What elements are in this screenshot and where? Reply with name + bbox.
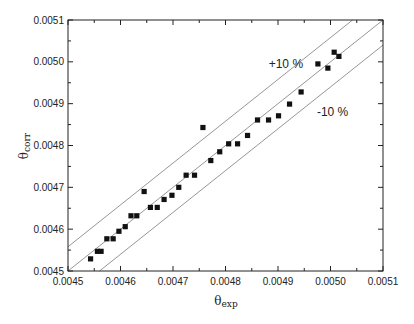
reference-line [100, 45, 384, 271]
data-point [88, 256, 93, 261]
y-tick-label: 0.0051 [33, 15, 64, 26]
x-tick-label: 0.0047 [158, 276, 189, 287]
y-tick-label: 0.0047 [33, 182, 64, 193]
reference-line [68, 20, 353, 247]
data-point [200, 125, 205, 130]
scatter-chart: 0.00450.00460.00470.00480.00490.00500.00… [0, 0, 414, 324]
data-point [142, 189, 147, 194]
data-point [184, 173, 189, 178]
x-tick-label: 0.0049 [263, 276, 294, 287]
y-axis-title: θcorr [17, 132, 32, 159]
y-tick-label: 0.0049 [33, 98, 64, 109]
y-tick-label: 0.0046 [33, 224, 64, 235]
data-point [266, 117, 271, 122]
data-point [245, 133, 250, 138]
data-point [161, 197, 166, 202]
data-point [217, 149, 222, 154]
x-axis-title: θexp [214, 294, 238, 309]
data-point [192, 173, 197, 178]
data-point [98, 249, 103, 254]
data-point [169, 193, 174, 198]
reference-lines [68, 20, 383, 271]
data-point [255, 117, 260, 122]
data-point [336, 54, 341, 59]
band-annotations: +10 %-10 % [269, 57, 349, 119]
data-point [116, 229, 121, 234]
x-tick-labels: 0.00450.00460.00470.00480.00490.00500.00… [53, 276, 399, 287]
data-point [325, 66, 330, 71]
data-point [148, 205, 153, 210]
data-point [176, 185, 181, 190]
band-label: +10 % [269, 57, 304, 71]
data-point [226, 141, 231, 146]
data-point [299, 89, 304, 94]
x-tick-label: 0.0050 [315, 276, 346, 287]
data-point [104, 236, 109, 241]
x-tick-label: 0.0048 [210, 276, 241, 287]
x-tick-label: 0.0046 [105, 276, 136, 287]
data-point [287, 101, 292, 106]
data-point [128, 213, 133, 218]
data-point [235, 141, 240, 146]
reference-line [68, 20, 383, 271]
data-point [276, 113, 281, 118]
y-tick-labels: 0.00450.00460.00470.00480.00490.00500.00… [33, 15, 64, 277]
y-tick-label: 0.0048 [33, 140, 64, 151]
data-points [88, 50, 342, 262]
data-point [208, 158, 213, 163]
x-tick-label: 0.0051 [368, 276, 399, 287]
x-tick-label: 0.0045 [53, 276, 84, 287]
data-point [134, 213, 139, 218]
data-point [315, 61, 320, 66]
data-point [155, 205, 160, 210]
band-label: -10 % [317, 105, 349, 119]
data-point [111, 236, 116, 241]
y-tick-label: 0.0050 [33, 56, 64, 67]
y-tick-label: 0.0045 [33, 266, 64, 277]
data-point [332, 50, 337, 55]
data-point [123, 224, 128, 229]
